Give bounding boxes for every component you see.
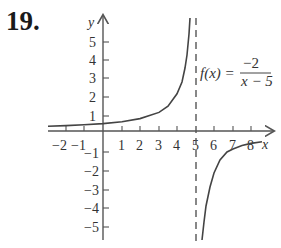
x-axis-label: x bbox=[261, 137, 269, 152]
function-label-denominator: x − 5 bbox=[240, 73, 273, 89]
curve-left-branch bbox=[48, 18, 190, 126]
x-tick-label: 2 bbox=[136, 138, 143, 153]
y-tick-label: −1 bbox=[84, 146, 99, 161]
y-tick-label: −5 bbox=[84, 220, 99, 235]
function-graph: y x −2 −1 1 2 3 4 5 6 7 8 5 4 3 2 1 −1 −… bbox=[0, 0, 281, 248]
y-ticks bbox=[103, 42, 109, 227]
x-tick-label: −2 bbox=[52, 138, 67, 153]
y-tick-label: 3 bbox=[89, 71, 96, 86]
y-axis-label: y bbox=[86, 15, 95, 30]
x-tick-label: 8 bbox=[247, 138, 254, 153]
y-tick-label: 1 bbox=[89, 109, 96, 124]
y-tick-label: −4 bbox=[84, 201, 99, 216]
x-ticks bbox=[66, 126, 251, 131]
function-label-lhs: f(x) = bbox=[200, 65, 235, 82]
function-label-numerator: −2 bbox=[243, 55, 259, 71]
y-tick-label: 5 bbox=[89, 35, 96, 50]
curve-right-branch bbox=[202, 142, 262, 240]
y-tick-label: −3 bbox=[84, 183, 99, 198]
y-tick-label: −2 bbox=[84, 164, 99, 179]
y-tick-label: 2 bbox=[89, 90, 96, 105]
x-tick-label: 4 bbox=[173, 138, 180, 153]
x-tick-label: 6 bbox=[210, 138, 217, 153]
x-tick-label: 3 bbox=[155, 138, 162, 153]
y-tick-label: 4 bbox=[89, 53, 96, 68]
x-tick-label: 1 bbox=[118, 138, 125, 153]
